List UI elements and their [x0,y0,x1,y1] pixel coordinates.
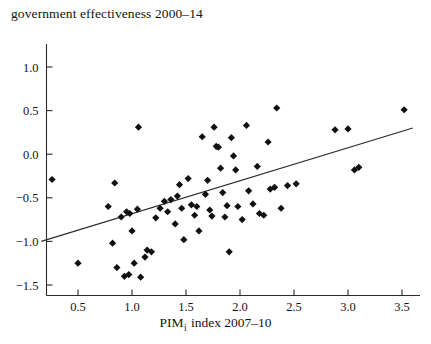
scatter-point [152,214,159,221]
scatter-point [206,206,213,213]
scatter-point [193,203,200,210]
scatter-point [230,152,237,159]
scatter-point [185,175,192,182]
scatter-point [234,203,241,210]
x-tick-label: 2.5 [286,300,302,314]
trendline [41,128,413,241]
scatter-point [105,203,112,210]
scatter-point [331,126,338,133]
scatter-point [228,134,235,141]
scatter-point [204,177,211,184]
scatter-point [199,133,206,140]
scatter-point [223,202,230,209]
scatter-point [135,124,142,131]
x-axis: 0.51.01.52.02.53.03.5 [47,289,421,314]
scatter-point [176,181,183,188]
scatter-point [273,104,280,111]
scatter-point [164,208,171,215]
scatter-point [113,264,120,271]
scatter-point [245,187,252,194]
scatter-point [111,179,118,186]
y-tick-label: 0.5 [23,104,39,118]
y-axis: 1.00.50.0−0.5−1.0−1.5 [16,44,53,295]
scatter-point [226,248,233,255]
scatter-point [48,176,55,183]
scatter-point [217,165,224,172]
plot-canvas: 1.00.50.0−0.5−1.0−1.5 0.51.01.52.02.53.0… [0,0,431,344]
y-tick-label: −1.5 [16,279,39,293]
x-axis-title: PIMi index 2007–10 [0,315,431,333]
scatter-point [137,274,144,281]
scatter-point [161,198,168,205]
x-axis-title-prefix: PIM [159,315,183,330]
scatter-point [74,260,81,267]
x-tick-label: 1.5 [178,300,194,314]
scatter-point [210,124,217,131]
x-tick-label: 3.5 [394,300,410,314]
scatter-point [284,182,291,189]
scatter-point [249,200,256,207]
scatter-point [293,180,300,187]
y-tick-label: −0.5 [16,191,39,205]
scatter-point [221,213,228,220]
scatter-point [131,260,138,267]
x-tick-label: 2.0 [232,300,248,314]
scatter-point [277,205,284,212]
scatter-point [401,106,408,113]
scatter-point [188,201,195,208]
scatter-point [109,240,116,247]
y-tick-label: 1.0 [23,61,39,75]
scatter-point [232,166,239,173]
scatter-point [178,205,185,212]
y-tick-label: −1.0 [16,235,39,249]
scatter-point [128,227,135,234]
scatter-point [141,253,148,260]
y-tick-label: 0.0 [23,148,39,162]
scatter-point [264,138,271,145]
x-axis-title-suffix: index 2007–10 [188,315,272,330]
regression-line [41,128,413,241]
scatter-point [172,220,179,227]
scatter-point [219,189,226,196]
x-tick-label: 3.0 [340,300,356,314]
x-tick-label: 0.5 [70,300,86,314]
scatter-point [191,212,198,219]
x-tick-label: 1.0 [124,300,140,314]
scatter-point [180,236,187,243]
scatter-point [254,163,261,170]
scatter-point [344,125,351,132]
scatter-chart: government effectiveness 2000–14 1.00.50… [0,0,431,344]
data-points [48,104,407,280]
scatter-point [195,227,202,234]
scatter-point [208,213,215,220]
scatter-point [118,213,125,220]
scatter-point [243,122,250,129]
scatter-point [239,216,246,223]
